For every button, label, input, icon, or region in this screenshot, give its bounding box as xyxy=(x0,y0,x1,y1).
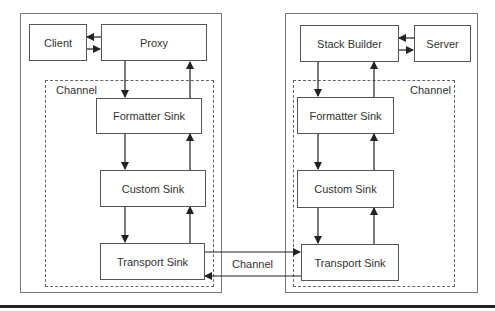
left-formatter-sink-node: Formatter Sink xyxy=(96,98,202,134)
right-formatter-sink-label: Formatter Sink xyxy=(309,110,381,122)
right-transport-sink-label: Transport Sink xyxy=(314,257,385,269)
left-custom-sink-node: Custom Sink xyxy=(100,170,206,207)
stack-builder-label: Stack Builder xyxy=(317,38,382,50)
left-transport-sink-node: Transport Sink xyxy=(100,243,205,280)
left-formatter-sink-label: Formatter Sink xyxy=(113,110,185,122)
right-transport-sink-node: Transport Sink xyxy=(301,244,399,281)
left-custom-sink-label: Custom Sink xyxy=(122,183,184,195)
proxy-label: Proxy xyxy=(140,37,168,49)
right-formatter-sink-node: Formatter Sink xyxy=(297,97,394,134)
right-custom-sink-node: Custom Sink xyxy=(297,170,394,208)
proxy-node: Proxy xyxy=(101,24,207,61)
left-transport-sink-label: Transport Sink xyxy=(117,256,188,268)
stack-builder-node: Stack Builder xyxy=(300,25,399,62)
right-custom-sink-label: Custom Sink xyxy=(314,183,376,195)
server-label: Server xyxy=(426,38,458,50)
bottom-rule-divider xyxy=(0,305,495,308)
server-node: Server xyxy=(414,25,471,62)
channel-link-label: Channel xyxy=(232,258,273,270)
client-label: Client xyxy=(44,37,72,49)
client-node: Client xyxy=(29,24,87,61)
